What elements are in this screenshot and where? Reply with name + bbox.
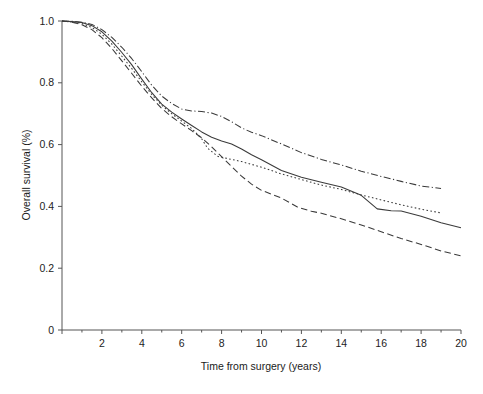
y-tick-label: 0 [48, 324, 54, 336]
y-tick-label: 1.0 [39, 15, 54, 27]
x-tick-label: 8 [219, 337, 225, 349]
x-tick-label: 10 [256, 337, 268, 349]
y-tick-group: 00.20.40.60.81.0 [39, 15, 62, 336]
y-tick-label: 0.8 [39, 76, 54, 88]
y-tick-label: 0.4 [39, 200, 54, 212]
chart-plot-area: 00.20.40.60.81.0 2468101214161820 Time f… [0, 0, 483, 394]
y-axis-title: Overall survival (%) [20, 129, 32, 220]
y-tick-label: 0.2 [39, 262, 54, 274]
x-tick-label: 18 [415, 337, 427, 349]
x-tick-label: 16 [375, 337, 387, 349]
x-tick-label: 4 [139, 337, 145, 349]
x-tick-group: 2468101214161820 [62, 330, 467, 349]
x-axis-title: Time from surgery (years) [201, 360, 321, 372]
y-tick-label: 0.6 [39, 138, 54, 150]
series-group [62, 21, 461, 256]
series-line [62, 21, 441, 188]
x-tick-label: 20 [455, 337, 467, 349]
series-line [62, 21, 461, 228]
survival-chart: 00.20.40.60.81.0 2468101214161820 Time f… [0, 0, 483, 394]
x-tick-label: 2 [99, 337, 105, 349]
x-tick-label: 6 [179, 337, 185, 349]
x-tick-label: 12 [296, 337, 308, 349]
x-tick-label: 14 [335, 337, 347, 349]
